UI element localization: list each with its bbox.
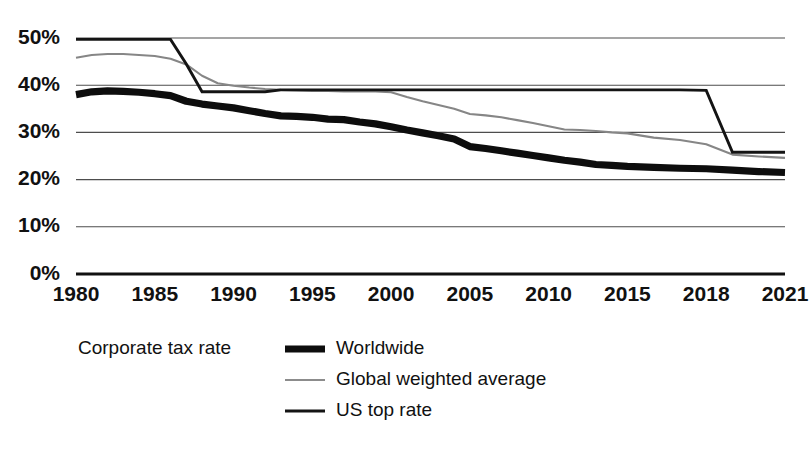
x-tick-label-2015: 2015	[604, 282, 651, 305]
legend-label-global-weighted-average: Global weighted average	[336, 368, 546, 389]
y-tick-label-40: 40%	[18, 72, 60, 95]
legend-title: Corporate tax rate	[78, 337, 231, 358]
y-tick-label-50: 50%	[18, 25, 60, 48]
y-axis-tick-labels: 0%10%20%30%40%50%	[18, 25, 60, 284]
y-tick-label-30: 30%	[18, 119, 60, 142]
x-tick-label-1995: 1995	[289, 282, 336, 305]
x-tick-label-2018: 2018	[683, 282, 730, 305]
legend-label-us-top-rate: US top rate	[336, 399, 432, 420]
x-tick-label-1990: 1990	[210, 282, 257, 305]
chart-container: 0%10%20%30%40%50% 1980198519901995200020…	[0, 0, 809, 449]
line-chart: 0%10%20%30%40%50% 1980198519901995200020…	[0, 0, 809, 449]
x-tick-label-1985: 1985	[131, 282, 178, 305]
x-tick-label-2005: 2005	[447, 282, 494, 305]
x-tick-label-1980: 1980	[53, 282, 100, 305]
y-tick-label-10: 10%	[18, 213, 60, 236]
gridlines	[76, 38, 785, 274]
y-tick-label-20: 20%	[18, 166, 60, 189]
x-tick-label-2000: 2000	[368, 282, 415, 305]
x-tick-label-2021: 2021	[762, 282, 809, 305]
chart-legend: Corporate tax rateWorldwideGlobal weight…	[78, 337, 546, 420]
x-tick-label-2010: 2010	[525, 282, 572, 305]
x-axis-tick-labels: 1980198519901995200020052010201520182021	[53, 282, 809, 305]
data-series-group	[76, 39, 785, 172]
y-tick-label-0: 0%	[30, 261, 61, 284]
legend-label-worldwide: Worldwide	[336, 337, 424, 358]
series-line-global-weighted-average	[76, 54, 785, 158]
